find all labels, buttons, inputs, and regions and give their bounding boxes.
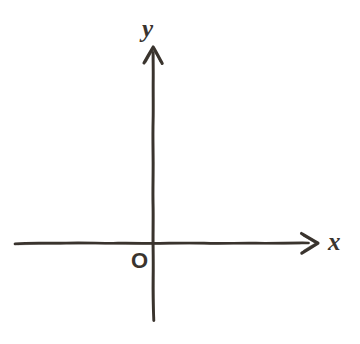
figure-canvas: y x O	[0, 0, 360, 344]
x-axis-label: x	[328, 229, 341, 254]
axes-sketch	[0, 0, 360, 344]
origin-label: O	[131, 250, 148, 272]
x-axis-group	[15, 234, 318, 254]
y-axis-group	[144, 47, 162, 321]
y-axis-label: y	[142, 16, 153, 41]
